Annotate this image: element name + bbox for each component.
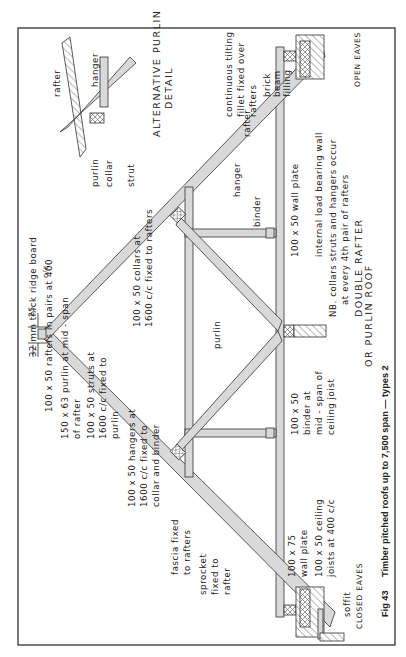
detail-label-strut: strut — [126, 164, 136, 187]
label-fascia-1: fascia fixed — [170, 519, 180, 575]
label-binder-4: ceiling joist — [326, 378, 336, 435]
label-ceiling-2: joists at 400 c/c — [326, 499, 336, 578]
label-struts-1: 100 x 50 struts at — [86, 352, 96, 439]
cavity-right — [300, 41, 310, 77]
label-struts-2: 1600 c/c fixed to — [98, 357, 108, 439]
label-purlin-2: of rafter — [72, 399, 82, 439]
label-internal-wall: internal load bearing wall — [314, 132, 324, 257]
figure-number: Fig 43 — [380, 590, 390, 617]
binder-right — [266, 228, 274, 238]
label-sprocket-3: rafter — [222, 568, 232, 595]
label-binder-center: binder — [252, 196, 262, 227]
wall-plate-100x75 — [284, 605, 296, 615]
label-struts-3: purlin — [110, 411, 120, 439]
detail-title-2: DETAIL — [163, 67, 174, 109]
label-binder-3: mid - span of — [314, 370, 324, 435]
label-fascia-2: to rafters — [182, 529, 192, 575]
roof-section-drawing: 25 32 mm thick ridge board 100 x 50 raft… — [0, 0, 406, 657]
label-purlin-1: 150 x 63 purlin at mid - span — [60, 297, 70, 439]
label-brick-2: beam — [272, 70, 282, 97]
label-sprocket-2: fixed to — [210, 558, 220, 595]
label-nb-1: NB. collars struts and hangers occur — [328, 139, 338, 317]
label-fillet-3: rafters — [248, 84, 258, 117]
label-sprocket-1: sprocket — [198, 554, 208, 595]
detail-title-1: ALTERNATIVE PURLIN — [151, 10, 162, 137]
label-collars-1: 100 x 50 collars at — [132, 236, 142, 327]
label-wall-plate-75-1: 100 x 75 — [287, 534, 297, 577]
label-closed-eaves: CLOSED EAVES — [355, 563, 364, 629]
label-purlin-center: purlin — [212, 321, 222, 349]
label-fillet-2: fillet fixed over — [236, 42, 246, 117]
label-wall-plate-75-2: wall plate — [299, 529, 309, 577]
label-hangers-1: 100 x 50 hangers at — [127, 409, 137, 507]
detail-label-collar: collar — [104, 160, 114, 187]
label-hanger-center: hanger — [232, 163, 242, 197]
label-open-eaves: OPEN EAVES — [353, 32, 362, 87]
wall-plate-open-eaves — [284, 51, 296, 61]
cavity-left — [300, 589, 310, 627]
label-wall-plate-50: 100 x 50 wall plate — [290, 163, 300, 257]
label-binder-2: binder at — [302, 391, 312, 435]
binder-left — [266, 428, 274, 438]
label-nb-2: at every 4th pair of rafters — [340, 174, 350, 305]
fascia — [320, 633, 344, 641]
internal-wall — [294, 325, 326, 337]
label-rafters: 100 x 50 rafters in pairs at 400 — [44, 259, 54, 412]
label-hangers-3: collar and binder — [151, 424, 161, 507]
figure-caption: Timber pitched roofs up to 7,500 span — … — [380, 365, 390, 577]
internal-wall-plate — [284, 325, 294, 337]
title-line2: OR PURLIN ROOF — [363, 264, 374, 367]
label-brick-3: filling — [282, 69, 292, 97]
label-brick-1: brick — [262, 73, 272, 97]
label-hangers-2: 1600 c/c fixed to — [139, 425, 149, 507]
label-soffit: soffit — [342, 592, 352, 617]
label-ceiling-1: 100 x 50 ceiling — [314, 499, 324, 577]
detail-label-hanger: hanger — [90, 53, 100, 87]
detail-label-rafter: rafter — [52, 70, 62, 97]
label-ridge-board: 32 mm thick ridge board — [28, 237, 38, 357]
label-rafters-cc: c/c — [41, 265, 50, 278]
label-binder-1: 100 x 50 — [290, 392, 300, 435]
detail-label-purlin: purlin — [90, 159, 100, 187]
label-fillet-1: continuous tilting — [224, 31, 234, 117]
label-collars-2: 1600 c/c fixed to rafters — [144, 209, 154, 327]
